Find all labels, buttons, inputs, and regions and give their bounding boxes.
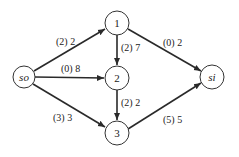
- edge-label-1-2: (2) 7: [121, 42, 140, 54]
- edge-label-1-si: (0) 2: [163, 37, 182, 49]
- node-so: so: [13, 66, 35, 88]
- node-label-3: 3: [114, 127, 120, 139]
- edge-label-2-3: (2) 2: [121, 97, 140, 109]
- node-2: 2: [105, 66, 129, 90]
- edge-1-2: (2) 7: [117, 35, 140, 65]
- edge-label-so-1: (2) 2: [56, 36, 75, 48]
- flow-network-diagram: (2) 2 (0) 8 (3) 3 (2) 7 (0) 2 (2) 2 (5) …: [0, 0, 239, 157]
- edge-2-3: (2) 2: [117, 90, 140, 120]
- node-label-so: so: [19, 71, 29, 83]
- edge-so-2: (0) 8: [35, 63, 104, 78]
- node-label-1: 1: [114, 17, 120, 29]
- edge-label-3-si: (5) 5: [163, 114, 182, 126]
- node-1: 1: [105, 11, 129, 35]
- edge-label-so-3: (3) 3: [53, 112, 72, 124]
- node-3: 3: [105, 121, 129, 145]
- node-label-si: si: [208, 71, 215, 83]
- edge-so-3: (3) 3: [33, 84, 105, 127]
- node-label-2: 2: [114, 72, 120, 84]
- edge-label-so-2: (0) 8: [61, 63, 80, 75]
- node-si: si: [200, 65, 224, 89]
